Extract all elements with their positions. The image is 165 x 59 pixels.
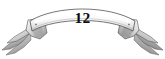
ribbon-banner-graphic: 12 xyxy=(0,0,165,59)
left-eyelet-icon xyxy=(35,23,37,25)
right-eyelet-icon xyxy=(128,23,130,25)
banner-number-label: 12 xyxy=(74,9,90,26)
ribbon-banner-figure: 12 xyxy=(0,0,165,59)
